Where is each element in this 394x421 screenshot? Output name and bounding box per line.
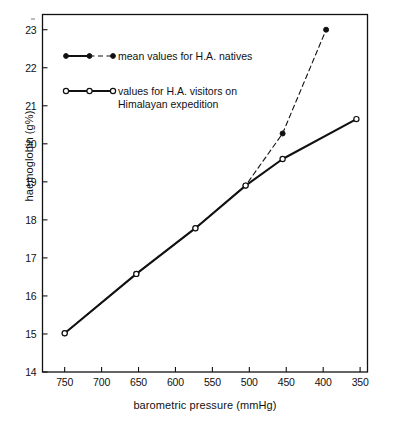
x-tick-label-600: 600 (155, 376, 195, 388)
y-tick-label-20: 20 (11, 138, 37, 150)
data-point (62, 331, 67, 336)
x-tick-label-450: 450 (266, 376, 306, 388)
legend-entry-natives: mean values for H.A. natives (118, 50, 252, 63)
y-tick-label-14: 14 (11, 366, 37, 378)
y-axis-tick-marks (43, 30, 48, 372)
x-tick-label-550: 550 (192, 376, 232, 388)
y-tick-label-18: 18 (11, 214, 37, 226)
y-tick-label-19: 19 (11, 176, 37, 188)
data-point (324, 27, 329, 32)
x-tick-label-750: 750 (45, 376, 85, 388)
data-point (280, 131, 285, 136)
legend-label-visitors-line2: Himalayan expedition (118, 98, 218, 110)
data-point (134, 271, 139, 276)
data-point (280, 156, 285, 161)
x-tick-label-400: 400 (303, 376, 343, 388)
x-tick-label-500: 500 (229, 376, 269, 388)
data-point (193, 226, 198, 231)
axes-frame (43, 15, 368, 373)
x-tick-label-700: 700 (82, 376, 122, 388)
y-tick-label-17: 17 (11, 252, 37, 264)
legend-label-visitors-line1: values for H.A. visitors on (118, 85, 237, 97)
y-tick-label-21: 21 (11, 100, 37, 112)
series-visitors (62, 117, 359, 336)
plot-area (0, 0, 394, 421)
x-tick-label-650: 650 (119, 376, 159, 388)
data-point (354, 117, 359, 122)
y-tick-label-22: 22 (11, 62, 37, 74)
y-tick-label-23: 23 (11, 24, 37, 36)
legend-marker-samples (63, 54, 115, 94)
legend-label-natives: mean values for H.A. natives (118, 50, 252, 62)
y-tick-label-15: 15 (11, 328, 37, 340)
x-tick-label-350: 350 (340, 376, 380, 388)
x-axis-label: barometric pressure (mmHg) (42, 399, 368, 411)
y-tick-label-16: 16 (11, 290, 37, 302)
series-line (65, 30, 326, 334)
legend-sample-natives (64, 54, 116, 59)
legend-entry-visitors: values for H.A. visitors on Himalayan ex… (118, 85, 237, 111)
series-line (65, 119, 357, 333)
chart-figure: haemoglobin (g%) barometric pressure (mm… (0, 0, 394, 421)
legend-sample-visitors (63, 88, 115, 93)
x-axis-tick-marks (65, 367, 360, 372)
series-natives (62, 27, 328, 336)
data-series-layer (62, 27, 359, 336)
data-point (243, 183, 248, 188)
